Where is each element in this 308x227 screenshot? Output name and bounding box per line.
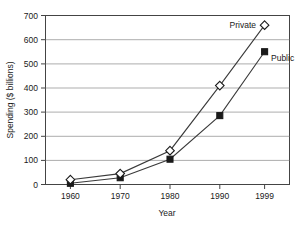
series-public-line (70, 52, 264, 184)
chart-canvas: 700 600 500 400 300 200 100 0 1960 1970 … (0, 0, 308, 227)
y-tick-label: 300 (24, 107, 38, 117)
data-point-private (216, 81, 225, 90)
data-point-private (166, 146, 175, 155)
series-label-public: Public (271, 53, 295, 63)
x-tick-label: 1960 (61, 191, 80, 201)
x-axis-tick-labels: 1960 1970 1980 1990 1999 (61, 191, 274, 201)
y-tick-label: 100 (24, 155, 38, 165)
y-axis-tick-labels: 700 600 500 400 300 200 100 0 (24, 11, 38, 190)
y-tick-label: 400 (24, 83, 38, 93)
y-tick-label: 700 (24, 11, 38, 21)
data-point-public (167, 156, 173, 162)
gridlines (46, 40, 290, 161)
y-tick-label: 200 (24, 131, 38, 141)
x-axis-title: Year (158, 208, 175, 218)
data-point-public (217, 113, 223, 119)
data-point-public (262, 49, 268, 55)
y-axis-ticks (41, 16, 46, 185)
x-tick-label: 1999 (255, 191, 274, 201)
series-public (67, 49, 267, 187)
y-axis-title: Spending ($ billions) (5, 61, 15, 138)
data-point-private (260, 21, 269, 30)
line-chart: 700 600 500 400 300 200 100 0 1960 1970 … (0, 0, 308, 227)
y-tick-label: 0 (33, 180, 38, 190)
x-tick-label: 1990 (210, 191, 229, 201)
x-tick-label: 1970 (111, 191, 130, 201)
y-tick-label: 600 (24, 35, 38, 45)
x-axis-ticks (70, 185, 264, 190)
x-tick-label: 1980 (161, 191, 180, 201)
y-tick-label: 500 (24, 59, 38, 69)
series-label-private: Private (230, 20, 257, 30)
